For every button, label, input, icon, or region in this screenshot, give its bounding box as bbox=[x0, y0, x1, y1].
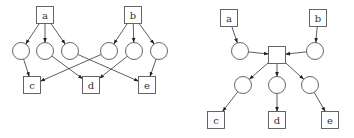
left-graph-box-node-d: d bbox=[83, 77, 100, 94]
right-graph-circle-node-m1 bbox=[232, 43, 249, 60]
right-graph-box-node-c: c bbox=[208, 112, 225, 129]
left-graph-edge-b-to-n5 bbox=[133, 24, 134, 43]
right-graph-circle-node-m4 bbox=[269, 77, 286, 94]
left-graph-circle-node-n6 bbox=[151, 43, 168, 60]
left-graph-circle-node-n1 bbox=[13, 43, 30, 60]
box-label: b bbox=[315, 13, 321, 24]
box-label: e bbox=[144, 80, 150, 91]
left-graph-edge-n6-to-e bbox=[150, 59, 156, 76]
nodes-layer: abcdeabcde bbox=[13, 7, 339, 129]
left-graph-edge-b-to-n4 bbox=[114, 24, 128, 44]
left-graph-box-node-b: b bbox=[125, 7, 142, 24]
right-graph-circle-node-m3 bbox=[235, 77, 252, 94]
left-graph-edge-n1-to-c bbox=[24, 59, 30, 76]
box-label: c bbox=[213, 115, 219, 126]
right-graph-edge-a-to-m1 bbox=[232, 27, 237, 43]
left-graph-circle-node-n3 bbox=[62, 43, 79, 60]
left-graph-edge-n5-to-d bbox=[100, 56, 128, 78]
right-graph-box-node-a: a bbox=[221, 10, 238, 27]
box-label: d bbox=[274, 115, 281, 126]
right-graph-edge-m5-to-e bbox=[314, 92, 325, 111]
right-graph-edge-hub-to-m5 bbox=[286, 63, 304, 80]
right-graph-edge-m3-to-c bbox=[223, 92, 238, 112]
right-graph-edge-hub-to-m3 bbox=[249, 63, 268, 80]
left-graph-box-node-a: a bbox=[37, 7, 54, 24]
box-shape bbox=[269, 47, 286, 64]
left-graph-box-node-e: e bbox=[139, 77, 156, 94]
edges-layer bbox=[24, 24, 326, 112]
right-graph-circle-node-m2 bbox=[307, 43, 324, 60]
diagram-canvas: abcdeabcde bbox=[0, 0, 354, 138]
right-graph-edge-b-to-m2 bbox=[316, 27, 317, 43]
left-graph-circle-node-n4 bbox=[101, 43, 118, 60]
right-graph-edge-m1-to-hub bbox=[248, 52, 268, 54]
box-label: a bbox=[226, 13, 232, 24]
left-graph-circle-node-n5 bbox=[126, 43, 143, 60]
right-graph-box-node-e: e bbox=[322, 112, 339, 129]
left-graph-edge-b-to-n6 bbox=[139, 24, 154, 45]
box-label: c bbox=[29, 80, 35, 91]
box-label: d bbox=[88, 80, 95, 91]
right-graph-box-node-hub bbox=[269, 47, 286, 64]
box-label: b bbox=[130, 10, 136, 21]
right-graph-box-node-d: d bbox=[269, 112, 286, 129]
box-label: e bbox=[327, 115, 333, 126]
left-graph-edge-a-to-n1 bbox=[26, 24, 40, 44]
right-graph-box-node-b: b bbox=[310, 10, 327, 27]
left-graph-circle-node-n2 bbox=[37, 43, 54, 60]
left-graph-box-node-c: c bbox=[24, 77, 41, 94]
left-graph-edge-a-to-n3 bbox=[51, 24, 65, 45]
right-graph-circle-node-m5 bbox=[302, 77, 319, 94]
box-label: a bbox=[42, 10, 48, 21]
right-graph-edge-m2-to-hub bbox=[286, 52, 307, 54]
